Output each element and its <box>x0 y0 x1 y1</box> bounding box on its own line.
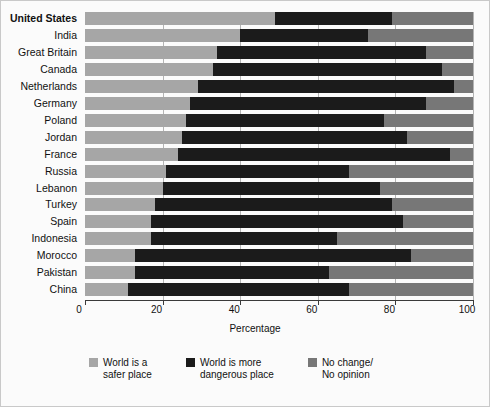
bar-segment-safer <box>85 46 217 59</box>
bar-segment-safer <box>85 198 155 211</box>
category-label: Jordan <box>45 131 77 144</box>
plot-area <box>85 12 473 300</box>
bar-segment-nochange <box>368 29 473 42</box>
bar-segment-safer <box>85 29 240 42</box>
stacked-bar <box>85 80 473 93</box>
x-tick-label: 0 <box>76 304 82 315</box>
stacked-bar <box>85 215 473 228</box>
bar-segment-nochange <box>407 131 473 144</box>
category-label: Turkey <box>45 198 77 211</box>
bar-segment-dangerous <box>128 283 349 296</box>
x-tick-0 <box>85 300 86 305</box>
bar-segment-safer <box>85 63 213 76</box>
bar-segment-safer <box>85 80 198 93</box>
stacked-bar <box>85 29 473 42</box>
bar-row <box>85 198 473 211</box>
bar-segment-dangerous <box>135 266 329 279</box>
bar-row <box>85 232 473 245</box>
safer-swatch <box>89 358 98 367</box>
bar-row <box>85 80 473 93</box>
stacked-bar <box>85 249 473 262</box>
category-label: India <box>54 29 77 42</box>
x-tick-20 <box>163 300 164 305</box>
bar-segment-safer <box>85 249 135 262</box>
nochange-swatch <box>308 358 317 367</box>
category-label: Russia <box>45 165 77 178</box>
danger-swatch <box>186 358 195 367</box>
chart-legend: World is a safer placeWorld is more dang… <box>89 357 373 380</box>
legend-label: No change/ No opinion <box>322 357 373 380</box>
bar-segment-dangerous <box>198 80 454 93</box>
legend-item: No change/ No opinion <box>308 357 373 380</box>
x-tick-60 <box>318 300 319 305</box>
category-label: Indonesia <box>31 232 77 245</box>
bar-segment-nochange <box>450 148 473 161</box>
x-tick-label: 20 <box>151 304 162 315</box>
legend-label: World is a safer place <box>103 357 152 380</box>
category-label: Poland <box>44 114 77 127</box>
bar-segment-nochange <box>384 114 473 127</box>
category-label: Great Britain <box>18 46 77 59</box>
bar-row <box>85 131 473 144</box>
bar-row <box>85 215 473 228</box>
bar-segment-safer <box>85 131 182 144</box>
bar-segment-dangerous <box>217 46 427 59</box>
x-tick-label: 40 <box>229 304 240 315</box>
bar-segment-dangerous <box>182 131 407 144</box>
category-label: Germany <box>34 97 77 110</box>
bar-segment-dangerous <box>135 249 410 262</box>
bar-segment-safer <box>85 148 178 161</box>
bar-segment-dangerous <box>163 182 380 195</box>
bar-row <box>85 29 473 42</box>
bar-row <box>85 63 473 76</box>
stacked-bar <box>85 97 473 110</box>
category-label: Netherlands <box>20 80 77 93</box>
chart-frame: United StatesIndiaGreat BritainCanadaNet… <box>0 0 490 407</box>
stacked-bar <box>85 63 473 76</box>
x-tick-label: 60 <box>306 304 317 315</box>
bar-segment-nochange <box>392 12 473 25</box>
category-axis-labels: United StatesIndiaGreat BritainCanadaNet… <box>1 12 83 300</box>
bar-row <box>85 97 473 110</box>
bar-segment-dangerous <box>155 198 392 211</box>
x-axis-title-text: Percentage <box>229 323 280 334</box>
category-label: Canada <box>40 63 77 76</box>
category-label: Spain <box>50 215 77 228</box>
bar-segment-dangerous <box>190 97 427 110</box>
bar-segment-safer <box>85 232 151 245</box>
x-axis-line <box>85 300 474 301</box>
bar-segment-nochange <box>403 215 473 228</box>
bar-segment-nochange <box>426 46 473 59</box>
bar-segment-safer <box>85 283 128 296</box>
bar-segment-dangerous <box>275 12 391 25</box>
x-tick-label: 100 <box>459 304 476 315</box>
bar-segment-safer <box>85 97 190 110</box>
bar-segment-nochange <box>349 283 473 296</box>
x-tick-40 <box>240 300 241 305</box>
category-label: Pakistan <box>37 266 77 279</box>
legend-item: World is a safer place <box>89 357 152 380</box>
stacked-bar <box>85 114 473 127</box>
bar-segment-safer <box>85 165 166 178</box>
category-label: Morocco <box>37 249 77 262</box>
bar-segment-safer <box>85 266 135 279</box>
bar-row <box>85 249 473 262</box>
bar-segment-dangerous <box>178 148 450 161</box>
bar-row <box>85 165 473 178</box>
bar-segment-dangerous <box>213 63 442 76</box>
bar-segment-nochange <box>442 63 473 76</box>
bar-row <box>85 12 473 25</box>
bar-segment-nochange <box>380 182 473 195</box>
stacked-bar <box>85 232 473 245</box>
stacked-bar <box>85 182 473 195</box>
stacked-bar <box>85 131 473 144</box>
bar-segment-nochange <box>411 249 473 262</box>
legend-label: World is more dangerous place <box>200 357 274 380</box>
bar-segment-dangerous <box>240 29 368 42</box>
legend-item: World is more dangerous place <box>186 357 274 380</box>
bar-segment-dangerous <box>186 114 384 127</box>
category-label: Lebanon <box>36 182 77 195</box>
bar-row <box>85 114 473 127</box>
bar-segment-safer <box>85 12 275 25</box>
bar-segment-safer <box>85 182 163 195</box>
